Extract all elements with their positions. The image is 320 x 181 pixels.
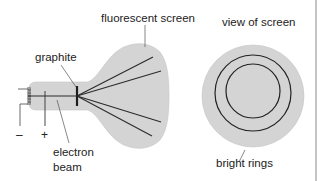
screen-view <box>202 45 304 147</box>
label-view-of-screen: view of screen <box>222 16 296 29</box>
cathode-heater-icon <box>18 87 31 126</box>
label-bright-rings: bright rings <box>216 157 273 170</box>
label-electron-beam-line2: beam <box>53 161 82 174</box>
label-plus: + <box>41 129 48 141</box>
electron-diffraction-diagram: fluorescent screen graphite electron bea… <box>0 0 320 181</box>
label-graphite: graphite <box>35 51 77 64</box>
label-electron-beam-line1: electron <box>53 146 94 159</box>
label-minus: – <box>16 129 23 141</box>
label-fluorescent-screen: fluorescent screen <box>101 12 195 25</box>
